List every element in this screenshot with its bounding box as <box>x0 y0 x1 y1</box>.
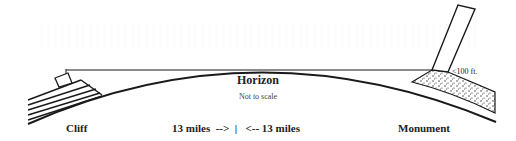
curvature-diagram: Horizon Not to scale Cliff 13 miles --> … <box>0 0 516 141</box>
diagram-drawing <box>0 0 516 141</box>
horizon-label: Horizon <box>225 74 291 86</box>
height-label: <100 ft. <box>452 68 477 76</box>
cliff-layers <box>28 80 102 120</box>
monument <box>432 5 475 72</box>
scale-note: Not to scale <box>220 93 296 101</box>
monument-label: Monument <box>398 123 450 134</box>
observer-box <box>55 69 72 87</box>
cliff-label: Cliff <box>66 123 87 134</box>
distance-label: 13 miles --> | <-- 13 miles <box>172 123 300 134</box>
